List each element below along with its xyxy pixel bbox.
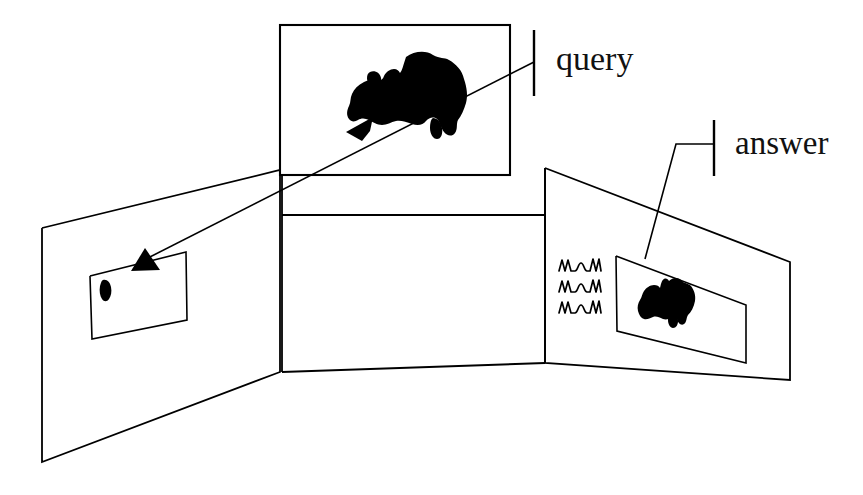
answer-leader (645, 120, 714, 259)
answer-leader-line (645, 144, 714, 259)
answer-label: answer (735, 127, 828, 160)
right-wall-outline (545, 168, 790, 380)
small-blob-left (100, 280, 112, 301)
squiggle-row-3 (559, 301, 601, 313)
back-wall (282, 168, 545, 372)
figure-canvas: query answer (0, 0, 863, 495)
right-thumbnail (616, 256, 746, 363)
small-blob-right (638, 278, 696, 325)
center-panel (280, 25, 510, 175)
left-wall-outline (42, 170, 280, 462)
right-wall (545, 168, 790, 380)
left-wall (42, 170, 280, 462)
floor-line (282, 363, 545, 372)
squiggle-row-1 (559, 259, 601, 271)
squiggle-text-lines (559, 259, 601, 313)
query-label: query (556, 42, 633, 76)
scene-line-drawing (0, 0, 863, 495)
squiggle-row-2 (559, 280, 601, 292)
